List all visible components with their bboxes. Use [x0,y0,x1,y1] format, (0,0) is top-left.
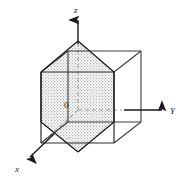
edge-depth-bottom-right [114,122,141,143]
x-axis-line [30,134,54,157]
edge-depth-top-right [114,51,141,72]
cube-coordinate-figure: z Y x 0 [0,0,187,182]
z-axis-label: z [73,5,78,15]
x-axis-label: x [14,164,19,174]
cube-diagram-svg: z Y x 0 [0,0,187,182]
origin-label: 0 [64,100,69,110]
y-axis-label: Y [170,106,176,116]
